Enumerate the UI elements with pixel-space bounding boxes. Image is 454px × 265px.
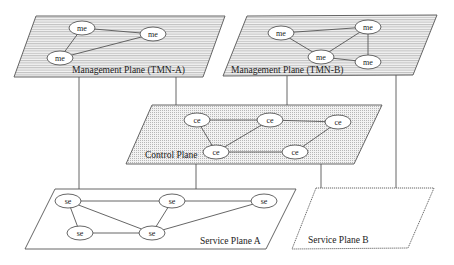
node-label: me bbox=[363, 23, 373, 32]
node-se: se bbox=[159, 194, 185, 208]
node-label: ce bbox=[212, 148, 220, 157]
node-ce: ce bbox=[257, 113, 283, 127]
node-label: me bbox=[316, 53, 326, 62]
plane-mgmt-a: mememeManagement Plane (TMN-A) bbox=[14, 16, 225, 77]
plane-label: Service Plane B bbox=[308, 235, 369, 245]
node-ce: ce bbox=[203, 145, 229, 159]
node-se: se bbox=[67, 226, 93, 240]
plane-mgmt-b: memememeManagement Plane (TMN-B) bbox=[223, 15, 437, 76]
node-label: me bbox=[148, 30, 158, 39]
node-label: se bbox=[169, 197, 176, 206]
node-se: se bbox=[251, 194, 277, 208]
plane-label: Control Plane bbox=[145, 150, 198, 160]
node-me: me bbox=[268, 26, 294, 40]
plane-label: Service Plane A bbox=[200, 236, 261, 246]
node-label: ce bbox=[266, 116, 274, 125]
plane-label: Management Plane (TMN-A) bbox=[72, 65, 185, 76]
node-label: me bbox=[363, 58, 373, 67]
node-me: me bbox=[69, 21, 95, 35]
node-ce: ce bbox=[325, 115, 351, 129]
node-ce: ce bbox=[282, 145, 308, 159]
node-label: se bbox=[149, 229, 156, 238]
node-label: ce bbox=[193, 116, 201, 125]
node-se: se bbox=[139, 226, 165, 240]
node-me: me bbox=[355, 20, 381, 34]
node-label: se bbox=[261, 197, 268, 206]
plane-control: cececececeControl Plane bbox=[126, 105, 382, 164]
node-label: ce bbox=[334, 118, 342, 127]
plane-service-b: Service Plane B bbox=[292, 188, 434, 249]
node-me: me bbox=[355, 55, 381, 69]
node-ce: ce bbox=[184, 113, 210, 127]
node-me: me bbox=[47, 51, 73, 65]
planes: mememeManagement Plane (TMN-A)memememeMa… bbox=[14, 15, 437, 249]
node-label: se bbox=[65, 197, 72, 206]
node-se: se bbox=[55, 194, 81, 208]
node-label: ce bbox=[291, 148, 299, 157]
node-label: me bbox=[276, 29, 286, 38]
node-label: me bbox=[77, 24, 87, 33]
network-planes-diagram: mememeManagement Plane (TMN-A)memememeMa… bbox=[0, 0, 454, 265]
plane-label: Management Plane (TMN-B) bbox=[231, 65, 343, 76]
node-label: se bbox=[77, 229, 84, 238]
node-label: me bbox=[55, 54, 65, 63]
node-me: me bbox=[308, 50, 334, 64]
node-me: me bbox=[140, 27, 166, 41]
plane-service-a: seseseseseService Plane A bbox=[25, 189, 296, 249]
